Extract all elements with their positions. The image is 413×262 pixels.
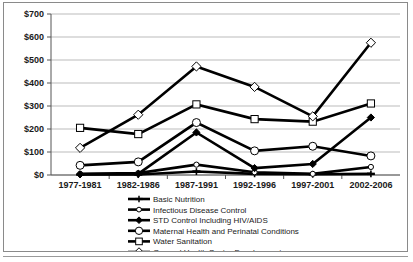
legend-label: STD Control Including HIV/AIDS [153,216,268,225]
data-point-marker-dash [367,170,375,177]
data-point-marker-open-circle [192,119,200,127]
data-point-marker-filled-diamond [76,171,83,178]
data-point-marker-open-square [251,116,258,123]
x-axis-tick-label: 1987-1991 [175,180,218,190]
data-point-marker-open-circle [135,227,142,234]
y-axis-tick-label: $0 [34,170,44,180]
data-point-marker-open-circle [76,161,84,169]
data-point-marker-small-circle [137,207,142,212]
x-axis-tick-label: 1982-1986 [117,180,160,190]
y-axis-tick-label: $600 [24,32,44,42]
y-axis-tick-label: $400 [24,78,44,88]
data-point-marker-filled-diamond [136,217,143,224]
data-point-marker-dash [135,196,142,202]
x-axis-tick-label: 1992-1996 [233,180,276,190]
legend-item: General Health Sector Development [128,248,282,251]
x-axis-tick-label: 1977-1981 [59,180,102,190]
legend-item: Maternal Health and Perinatal Conditions [128,227,299,236]
legend-label: Maternal Health and Perinatal Conditions [153,227,299,236]
x-axis-tick-label: 1997-2001 [291,180,334,190]
y-axis-tick-label: $500 [24,55,44,65]
data-point-marker-open-circle [251,147,259,155]
legend-item: Water Sanitation [128,237,212,246]
series-3 [76,119,375,170]
y-axis-tick-label: $700 [24,9,44,19]
data-point-marker-open-diamond [135,248,143,251]
x-axis-tick-label: 2002-2006 [349,180,392,190]
data-point-marker-small-circle [194,162,199,167]
data-point-marker-open-circle [367,152,375,160]
data-point-marker-open-diamond [250,82,259,91]
data-point-marker-open-circle [309,142,317,150]
data-point-marker-open-circle [134,158,142,166]
data-point-marker-open-square [135,130,142,137]
legend-label: General Health Sector Development [153,248,282,251]
series-4 [76,100,374,138]
legend-label: Infectious Disease Control [153,206,247,215]
data-point-marker-open-square [136,238,143,245]
line-chart: $0$100$200$300$400$500$600$7001977-19811… [4,3,407,251]
data-point-marker-dash [192,168,200,175]
data-point-marker-open-square [193,101,200,108]
data-point-marker-open-square [367,100,374,107]
data-point-marker-open-square [76,124,83,131]
data-point-marker-small-circle [310,171,315,176]
bottom-divider [3,256,408,257]
legend-label: Basic Nutrition [153,195,205,204]
data-point-marker-small-circle [368,164,373,169]
legend-item: Basic Nutrition [128,195,205,204]
legend-item: Infectious Disease Control [128,206,247,215]
legend-label: Water Sanitation [153,237,212,246]
y-axis-tick-label: $200 [24,124,44,134]
legend-item: STD Control Including HIV/AIDS [128,216,268,225]
y-axis-tick-label: $300 [24,101,44,111]
chart-frame: $0$100$200$300$400$500$600$7001977-19811… [3,2,408,252]
y-axis-tick-label: $100 [24,147,44,157]
